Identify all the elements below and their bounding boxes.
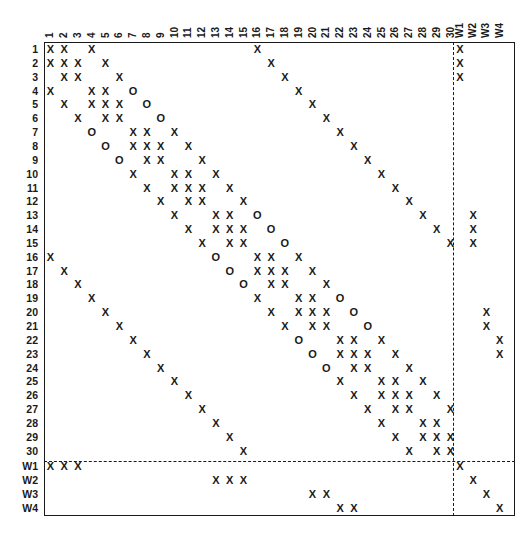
x-mark: X [389, 403, 401, 415]
x-mark: X [320, 306, 332, 318]
x-mark: X [417, 417, 429, 429]
row-header-8: 8 [4, 140, 38, 152]
column-header-23: 23 [349, 27, 359, 38]
x-mark: X [265, 57, 277, 69]
column-header-4: 4 [87, 32, 97, 38]
row-header-10: 10 [4, 168, 38, 180]
column-header-19: 19 [294, 27, 304, 38]
o-mark: O [238, 278, 250, 290]
o-mark: O [155, 112, 167, 124]
x-mark: X [454, 57, 466, 69]
x-mark: X [196, 182, 208, 194]
x-mark: X [334, 348, 346, 360]
x-mark: X [182, 195, 194, 207]
x-mark: X [293, 306, 305, 318]
x-mark: X [403, 195, 415, 207]
o-mark: O [279, 237, 291, 249]
x-mark: X [100, 112, 112, 124]
x-mark: X [417, 375, 429, 387]
x-mark: X [494, 502, 506, 514]
column-header-16: 16 [252, 27, 262, 38]
x-mark: X [348, 362, 360, 374]
x-mark: X [169, 126, 181, 138]
x-mark: X [141, 182, 153, 194]
x-mark: X [293, 85, 305, 97]
x-mark: X [334, 334, 346, 346]
row-header-15: 15 [4, 237, 38, 249]
x-mark: X [72, 112, 84, 124]
x-mark: X [467, 474, 479, 486]
x-mark: X [265, 306, 277, 318]
row-header-3: 3 [4, 71, 38, 83]
row-header-26: 26 [4, 389, 38, 401]
x-mark: X [182, 223, 194, 235]
x-mark: X [403, 362, 415, 374]
x-mark: X [389, 375, 401, 387]
o-mark: O [224, 265, 236, 277]
x-mark: X [182, 168, 194, 180]
x-mark: X [58, 98, 70, 110]
x-mark: X [445, 403, 457, 415]
row-header-9: 9 [4, 154, 38, 166]
x-mark: X [279, 320, 291, 332]
x-mark: X [182, 140, 194, 152]
row-header-w3: W3 [4, 488, 38, 500]
o-mark: O [100, 140, 112, 152]
x-mark: X [86, 43, 98, 55]
x-mark: X [44, 43, 56, 55]
o-mark: O [127, 85, 139, 97]
x-mark: X [389, 182, 401, 194]
x-mark: X [279, 265, 291, 277]
x-mark: X [100, 98, 112, 110]
x-mark: X [307, 488, 319, 500]
o-mark: O [210, 251, 222, 263]
x-mark: X [293, 251, 305, 263]
x-mark: X [58, 460, 70, 472]
x-mark: X [348, 140, 360, 152]
x-mark: X [141, 140, 153, 152]
x-mark: X [86, 292, 98, 304]
x-mark: X [307, 98, 319, 110]
row-header-29: 29 [4, 431, 38, 443]
x-mark: X [376, 168, 388, 180]
x-mark: X [431, 223, 443, 235]
x-mark: X [58, 57, 70, 69]
x-mark: X [334, 375, 346, 387]
x-mark: X [210, 223, 222, 235]
o-mark: O [141, 98, 153, 110]
x-mark: X [293, 292, 305, 304]
x-mark: X [376, 375, 388, 387]
x-mark: X [265, 265, 277, 277]
x-mark: X [454, 71, 466, 83]
x-mark: X [362, 403, 374, 415]
column-header-18: 18 [280, 27, 290, 38]
x-mark: X [467, 209, 479, 221]
x-mark: X [334, 502, 346, 514]
column-header-17: 17 [266, 27, 276, 38]
x-mark: X [72, 278, 84, 290]
x-mark: X [445, 445, 457, 457]
x-mark: X [494, 348, 506, 360]
o-mark: O [265, 223, 277, 235]
x-mark: X [127, 334, 139, 346]
row-header-30: 30 [4, 445, 38, 457]
x-mark: X [389, 431, 401, 443]
x-mark: X [155, 140, 167, 152]
x-mark: X [376, 334, 388, 346]
row-header-20: 20 [4, 306, 38, 318]
x-mark: X [362, 348, 374, 360]
row-header-17: 17 [4, 265, 38, 277]
x-mark: X [320, 112, 332, 124]
row-header-24: 24 [4, 362, 38, 374]
x-mark: X [454, 460, 466, 472]
x-mark: X [238, 195, 250, 207]
row-header-4: 4 [4, 85, 38, 97]
column-header-28: 28 [418, 27, 428, 38]
x-mark: X [127, 140, 139, 152]
x-mark: X [224, 209, 236, 221]
x-mark: X [113, 320, 125, 332]
column-header-2: 2 [59, 32, 69, 38]
x-mark: X [224, 237, 236, 249]
x-mark: X [224, 431, 236, 443]
x-mark: X [265, 278, 277, 290]
